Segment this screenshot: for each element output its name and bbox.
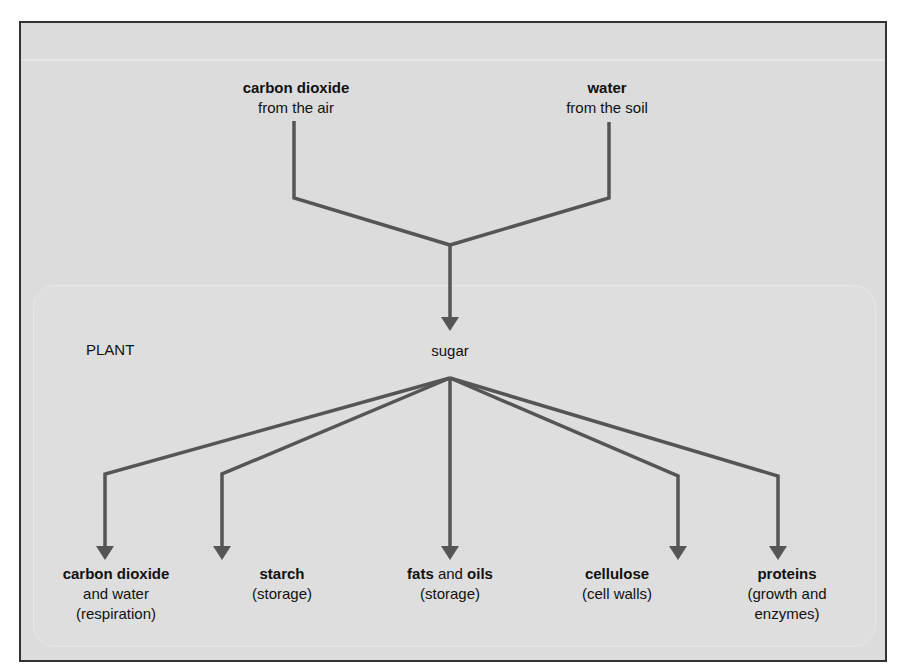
arrow-to-sugar-icon [441, 317, 459, 331]
output-line2: (storage) [420, 585, 480, 602]
sugar-label: sugar [431, 341, 469, 361]
output-line2: (growth and [747, 585, 826, 602]
output-starch: starch (storage) [252, 564, 312, 604]
output-proteins: proteins (growth and enzymes) [747, 564, 826, 624]
input-title: carbon dioxide [243, 79, 350, 96]
output-title: fats [407, 565, 434, 582]
input-sub: from the air [258, 99, 334, 116]
output-title: proteins [757, 565, 816, 582]
output-title: starch [259, 565, 304, 582]
output-fats-oils: fats and oils (storage) [407, 564, 493, 604]
plant-label: PLANT [86, 341, 134, 358]
output-line3: enzymes) [754, 605, 819, 622]
output-title: carbon dioxide [63, 565, 170, 582]
output-title2: oils [467, 565, 493, 582]
input-title: water [587, 79, 626, 96]
output-carbon-dioxide-water: carbon dioxide and water (respiration) [63, 564, 170, 624]
input-water: water from the soil [566, 78, 648, 118]
input-carbon-dioxide: carbon dioxide from the air [243, 78, 350, 118]
input-sub: from the soil [566, 99, 648, 116]
output-cellulose: cellulose (cell walls) [582, 564, 652, 604]
output-line2: (storage) [252, 585, 312, 602]
output-mid: and [438, 565, 463, 582]
output-line3: (respiration) [76, 605, 156, 622]
output-line2: and water [83, 585, 149, 602]
output-line2: (cell walls) [582, 585, 652, 602]
output-title: cellulose [585, 565, 649, 582]
